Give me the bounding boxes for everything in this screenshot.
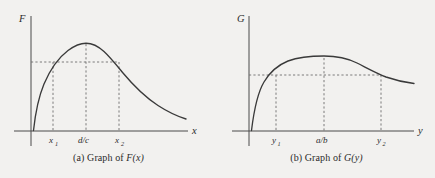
tick-sub-y1: 1 [278,140,281,147]
caption-function-a: F(x) [126,152,144,163]
tick-label-ab: a/b [316,135,328,145]
tick-label-dc: d/c [78,135,89,145]
tick-label-x2: x [114,135,119,145]
tick-label-y2: y [376,135,381,145]
panel-graph-g: G y y 1 a/b y 2 (b) Graph of G(y) [218,0,435,178]
x-axis-label-g: y [417,125,423,136]
y-axis-label-g: G [237,13,245,24]
tick-sub-x1: 1 [55,140,58,147]
tick-label-y1: y [271,135,276,145]
figure-container: F x x 1 d/c x 2 (a) Graph of F(x) [0,0,435,178]
caption-prefix-b: (b) Graph of [290,152,344,163]
x-axis-label-f: x [191,125,197,136]
caption-function-b: G(y) [344,152,363,163]
caption-prefix-a: (a) Graph of [73,152,126,163]
tick-sub-x2: 2 [121,140,124,147]
y-axis-label-f: F [18,13,26,24]
curve-f [34,43,187,130]
tick-label-x1: x [48,135,53,145]
panel-graph-f: F x x 1 d/c x 2 (a) Graph of F(x) [0,0,217,178]
plot-area-g: G y y 1 a/b y 2 [218,0,435,150]
tick-sub-y2: 2 [383,140,386,147]
caption-panel-a: (a) Graph of F(x) [0,152,217,163]
caption-panel-b: (b) Graph of G(y) [218,152,435,163]
plot-area-f: F x x 1 d/c x 2 [0,0,217,150]
